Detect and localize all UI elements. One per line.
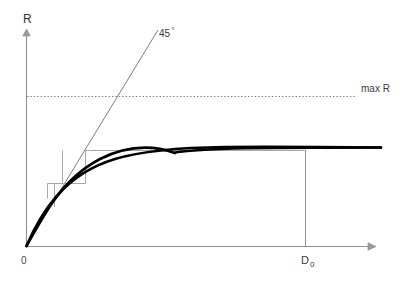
y-axis <box>23 29 30 246</box>
max-r-label: max R <box>361 84 390 94</box>
degree-sign-icon: ° <box>171 26 174 35</box>
response-curve-smooth <box>27 147 382 246</box>
chart-figure: R 0 D0 45° max R <box>0 0 405 282</box>
angle-label: 45° <box>159 29 173 39</box>
d0-label-subscript: 0 <box>310 260 314 269</box>
x-axis <box>27 243 377 250</box>
y-axis-label: R <box>23 13 32 25</box>
response-curve <box>27 148 382 247</box>
d0-label-text: D <box>301 254 309 266</box>
cobweb-staircase <box>48 151 307 208</box>
angle-label-value: 45 <box>159 28 170 39</box>
chart-canvas <box>0 0 405 282</box>
origin-label: 0 <box>21 256 27 266</box>
d0-label: D0 <box>301 255 313 266</box>
